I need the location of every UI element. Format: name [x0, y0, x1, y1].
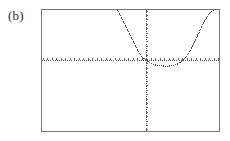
curve-point [132, 39, 133, 40]
curve-point [161, 65, 162, 66]
curve-point [163, 65, 164, 66]
curve-point [202, 24, 203, 25]
curve-point [211, 11, 212, 12]
curve-point [173, 65, 174, 66]
curve-point [188, 53, 189, 54]
curve-point [199, 32, 200, 33]
curve-point [137, 49, 138, 50]
curve-point [155, 64, 156, 65]
curve-point [127, 29, 128, 30]
curve-point [133, 42, 134, 43]
curve-point [117, 10, 118, 11]
curve-point [122, 19, 123, 20]
curve-point [195, 40, 196, 41]
curve-point [149, 62, 150, 63]
curve-point [203, 23, 204, 24]
curve-point [184, 58, 185, 59]
curve-point [146, 60, 147, 61]
curve-point [117, 9, 118, 10]
curve-point [125, 26, 126, 27]
curve-point [175, 64, 176, 65]
curve-point [189, 51, 190, 52]
curve-point [119, 14, 120, 15]
curve-point [200, 29, 201, 30]
curve-point [207, 16, 208, 17]
curve-point [181, 61, 182, 62]
curve-point [197, 34, 198, 35]
curve-point [120, 15, 121, 16]
curve-point [198, 33, 199, 34]
curve-point [125, 25, 126, 26]
curve-point [210, 12, 211, 13]
curve-point [127, 30, 128, 31]
curve-point [171, 65, 172, 66]
curve-point [192, 45, 193, 46]
curve-point [179, 62, 180, 63]
curve-point [180, 62, 181, 63]
curve-point [194, 41, 195, 42]
curve-point [213, 10, 214, 11]
curve-point [139, 53, 140, 54]
curve-point [157, 65, 158, 66]
curve-point [121, 17, 122, 18]
curve-point [159, 65, 160, 66]
curve-point [193, 44, 194, 45]
curve-point [153, 64, 154, 65]
curve-point [143, 58, 144, 59]
curve-point [169, 65, 170, 66]
curve-point [141, 56, 142, 57]
curve-point [131, 38, 132, 39]
curve-point [201, 27, 202, 28]
curve-point [135, 45, 136, 46]
curve-point [208, 14, 209, 15]
plot-canvas [0, 0, 230, 141]
curve-point [137, 50, 138, 51]
curve-point [130, 35, 131, 36]
curve-point [196, 37, 197, 38]
curve-point [142, 57, 143, 58]
curve-point [185, 57, 186, 58]
curve-point [118, 11, 119, 12]
plot-frame [42, 10, 220, 132]
curve-point [135, 46, 136, 47]
curve-point [191, 48, 192, 49]
curve-point [209, 13, 210, 14]
curve-point [190, 50, 191, 51]
curve-point [129, 34, 130, 35]
curve-point [201, 26, 202, 27]
curve-point [204, 20, 205, 21]
curve-point [165, 66, 166, 67]
curve-point [191, 47, 192, 48]
curve-point [182, 60, 183, 61]
curve-point [183, 59, 184, 60]
curve-point [123, 21, 124, 22]
curve-point [131, 37, 132, 38]
curve-point [167, 66, 168, 67]
figure-panel: (b) [0, 0, 230, 141]
curve-point [186, 56, 187, 57]
curve-point [205, 19, 206, 20]
curve-point [197, 36, 198, 37]
curve-point [187, 54, 188, 55]
curve-point [129, 33, 130, 34]
curve-point [199, 30, 200, 31]
curve-point [136, 47, 137, 48]
curve-point [133, 41, 134, 42]
curve-point [206, 17, 207, 18]
curve-point [148, 61, 149, 62]
curve-point [147, 61, 148, 62]
curve-point [121, 18, 122, 19]
curve-point [119, 13, 120, 14]
curve-point [124, 23, 125, 24]
curve-point [145, 59, 146, 60]
curve-point [138, 51, 139, 52]
curve-point [123, 22, 124, 23]
curve-point [215, 9, 216, 10]
curve-point [177, 63, 178, 64]
curve-point [126, 27, 127, 28]
curve-point [151, 63, 152, 64]
curve-point [140, 54, 141, 55]
curve-point [144, 58, 145, 59]
curve-point [128, 31, 129, 32]
curve-point [134, 43, 135, 44]
